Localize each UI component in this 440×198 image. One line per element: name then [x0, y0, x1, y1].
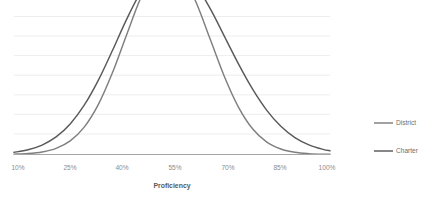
legend-item-district[interactable]: District: [374, 119, 416, 126]
x-tick-label: 55%: [168, 164, 181, 171]
line-chart: 10% 25% 40% 55% 70% 85% 100% Proficiency…: [0, 0, 440, 198]
x-tick-label: 85%: [273, 164, 286, 171]
chart-container: 10% 25% 40% 55% 70% 85% 100% Proficiency…: [0, 0, 440, 198]
gridlines-group: [14, 17, 330, 135]
series-line-district: [14, 0, 330, 154]
legend-item-charter[interactable]: Charter: [374, 147, 419, 154]
x-tick-label: 40%: [115, 164, 128, 171]
x-tick-label: 10%: [11, 164, 24, 171]
x-tick-label: 25%: [63, 164, 76, 171]
x-tick-label: 100%: [319, 164, 336, 171]
series-group: [14, 0, 330, 154]
series-line-charter: [14, 0, 330, 152]
x-axis-title: Proficiency: [153, 182, 190, 190]
legend-label-charter: Charter: [396, 147, 419, 154]
x-tick-label: 70%: [221, 164, 234, 171]
legend-label-district: District: [396, 119, 416, 126]
legend: District Charter: [374, 119, 419, 154]
x-tick-labels: 10% 25% 40% 55% 70% 85% 100%: [11, 164, 335, 171]
